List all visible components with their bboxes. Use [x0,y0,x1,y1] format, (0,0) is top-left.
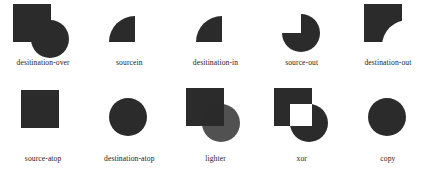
circle-shape [202,104,240,142]
composite-row-bottom: source-atop destination-atop lighter xor [0,84,431,184]
composite-label: source-out [285,58,318,68]
composite-preview-destination-out [350,2,426,56]
composite-label: desitination-in [193,58,238,68]
composite-preview-copy [350,84,426,150]
composite-preview-destination-atop [91,84,167,150]
composite-preview-destination-over [5,2,81,56]
composite-cell-copy: copy [345,84,431,184]
quarter-wedge-shape [109,16,135,42]
composite-label: destination-atop [104,154,155,164]
composite-label: sourcein [116,58,143,68]
composite-cell-destination-in: desitination-in [172,2,258,80]
composite-label: source-atop [25,154,62,164]
square-shape [21,90,59,128]
composite-preview-source-in [91,2,167,56]
composite-row-top: desitination-over sourcein desitination-… [0,2,431,80]
composite-operations-figure: desitination-over sourcein desitination-… [0,0,431,186]
composite-cell-source-in: sourcein [86,2,172,80]
composite-cell-destination-over: desitination-over [0,2,86,80]
circle-shape [31,20,69,58]
circle-shape [368,98,406,136]
composite-cell-destination-atop: destination-atop [86,84,172,184]
composite-preview-lighter [178,84,254,150]
composite-preview-destination-in [178,2,254,56]
knockout-quadrant [282,14,301,33]
composite-cell-xor: xor [259,84,345,184]
composite-cell-destination-out: destination-out [345,2,431,80]
circle-shape [109,98,147,136]
composite-cell-source-out: source-out [259,2,345,80]
composite-preview-xor [264,84,340,150]
composite-cell-source-atop: source-atop [0,84,86,184]
knockout-overlap [290,104,312,126]
composite-label: lighter [205,154,226,164]
composite-preview-source-out [264,2,340,56]
composite-label: xor [296,154,306,164]
composite-preview-source-atop [5,84,81,150]
composite-label: destination-out [364,58,411,68]
composite-cell-lighter: lighter [172,84,258,184]
composite-label: copy [380,154,395,164]
composite-label: desitination-over [17,58,70,68]
quarter-wedge-shape [196,16,222,42]
